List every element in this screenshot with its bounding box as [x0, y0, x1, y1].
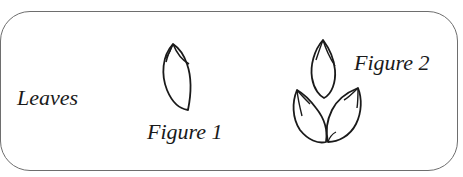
figure-2-label: Figure 2 [354, 52, 430, 74]
figure-1-leaf-icon [160, 40, 200, 115]
figure-1-label: Figure 1 [147, 121, 223, 143]
leaves-label: Leaves [17, 87, 78, 109]
